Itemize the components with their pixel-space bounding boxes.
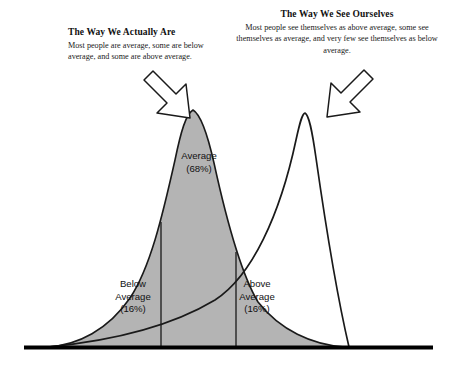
annotation-perceived-body: Most people see themselves as above aver… <box>236 22 438 56</box>
annotation-actual: The Way We Actually Are Most people are … <box>68 26 228 63</box>
figure-canvas: The Way We Actually Are Most people are … <box>0 0 457 372</box>
right-callout-arrow <box>327 70 373 117</box>
annotation-perceived-title: The Way We See Ourselves <box>236 8 438 20</box>
annotation-actual-title: The Way We Actually Are <box>68 26 228 38</box>
segment-label-below-average: Below Average (16%) <box>105 278 161 316</box>
annotation-perceived: The Way We See Ourselves Most people see… <box>236 8 438 56</box>
segment-label-average: Average (68%) <box>163 150 235 175</box>
segment-label-above-average: Above Average (16%) <box>228 278 286 316</box>
left-callout-arrow <box>144 71 190 118</box>
annotation-actual-body: Most people are average, some are below … <box>68 40 228 63</box>
actual-distribution-area <box>48 110 345 347</box>
